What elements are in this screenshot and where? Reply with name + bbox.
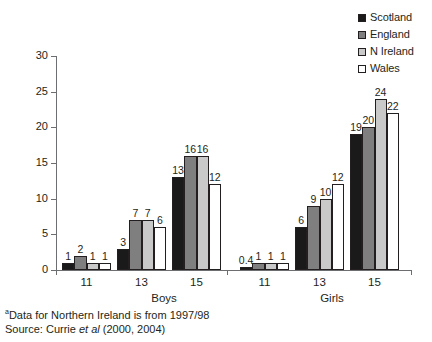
bar[interactable] — [129, 220, 141, 270]
bar[interactable] — [265, 263, 277, 270]
bar[interactable] — [99, 263, 111, 270]
bar[interactable] — [197, 156, 209, 270]
bar-group-bars: 19202422 — [350, 56, 399, 270]
bar-value-label: 9 — [310, 194, 316, 205]
legend-swatch-england — [358, 31, 366, 39]
bar-value-label: 3 — [120, 237, 126, 248]
legend-item-england: England — [358, 27, 432, 42]
bar-slot: 1 — [87, 56, 99, 270]
bar-slot: 16 — [197, 56, 209, 270]
bar[interactable] — [320, 199, 332, 270]
bar[interactable] — [74, 256, 86, 270]
x-axis-tick-label: 15 — [368, 276, 381, 289]
y-axis-tick: 10 — [51, 199, 56, 200]
bar-value-label: 1 — [268, 251, 274, 262]
bar-group: 121111 — [62, 56, 111, 270]
bar-slot: 10 — [320, 56, 332, 270]
bar[interactable] — [117, 249, 129, 270]
bar[interactable] — [332, 184, 344, 270]
bar-slot: 0.4 — [240, 56, 252, 270]
bar[interactable] — [252, 263, 264, 270]
x-axis-separator-tick — [227, 270, 228, 275]
bar[interactable] — [375, 99, 387, 270]
bar[interactable] — [277, 263, 289, 270]
footnote-note-text: Data for Northern Ireland is from 1997/9… — [9, 309, 210, 321]
x-axis-tick-label: 11 — [259, 276, 271, 289]
y-axis-tick-label: 15 — [36, 156, 48, 169]
bar[interactable] — [295, 227, 307, 270]
bar[interactable] — [387, 113, 399, 270]
bar-slot: 19 — [350, 56, 362, 270]
bar-group-bars: 13161612 — [172, 56, 221, 270]
bar-value-label: 12 — [332, 172, 344, 183]
legend-swatch-n-ireland — [358, 48, 366, 56]
bar-value-label: 6 — [298, 215, 304, 226]
bar[interactable] — [87, 263, 99, 270]
bar-slot: 6 — [295, 56, 307, 270]
bar[interactable] — [350, 134, 362, 270]
bar-group: 1316161215 — [172, 56, 221, 270]
bar[interactable] — [142, 220, 154, 270]
legend-label-scotland: Scotland — [370, 12, 412, 23]
bar-value-label: 2 — [77, 244, 83, 255]
plot-area: 051015202530 12111137761313161612150.411… — [56, 56, 412, 270]
bar-group: 1920242215 — [350, 56, 399, 270]
bar-group-bars: 3776 — [117, 56, 166, 270]
footnote-note: aData for Northern Ireland is from 1997/… — [5, 308, 425, 322]
y-axis-tick: 30 — [51, 56, 56, 57]
y-axis-tick-label: 20 — [36, 120, 48, 133]
bar-value-label: 22 — [387, 101, 399, 112]
y-axis-tick-label: 25 — [36, 85, 48, 98]
y-axis-tick: 20 — [51, 127, 56, 128]
bar-value-label: 19 — [350, 122, 362, 133]
bar-slot: 6 — [154, 56, 166, 270]
bar-slot: 2 — [74, 56, 86, 270]
bar-value-label: 16 — [197, 144, 209, 155]
bar-value-label: 1 — [65, 251, 71, 262]
bar-slot: 12 — [209, 56, 221, 270]
bar[interactable] — [154, 227, 166, 270]
source-years: (2000, 2004) — [100, 323, 165, 335]
axis-group-label-boys: Boys — [151, 292, 177, 305]
footnotes: aData for Northern Ireland is from 1997/… — [5, 308, 425, 336]
bar-group: 377613 — [117, 56, 166, 270]
bar-slot: 12 — [332, 56, 344, 270]
bar[interactable] — [62, 263, 74, 270]
bar-slot: 20 — [362, 56, 374, 270]
bar[interactable] — [362, 127, 374, 270]
bar[interactable] — [240, 267, 252, 270]
y-axis-tick-label: 5 — [42, 227, 48, 240]
y-axis-tick: 25 — [51, 92, 56, 93]
legend-swatch-scotland — [358, 14, 366, 22]
bar-value-label: 16 — [185, 144, 197, 155]
x-axis-separator-tick — [411, 270, 412, 275]
x-axis-tick-label: 13 — [313, 276, 326, 289]
bar-group-bars: 1211 — [62, 56, 111, 270]
source-etal: et al — [79, 323, 100, 335]
bar-value-label: 13 — [172, 165, 184, 176]
bar-slot: 7 — [129, 56, 141, 270]
clipped-title-ghost — [86, 0, 89, 3]
bar-slot: 13 — [172, 56, 184, 270]
y-axis-tick: 15 — [51, 163, 56, 164]
legend-item-scotland: Scotland — [358, 10, 432, 25]
y-axis-tick: 5 — [51, 234, 56, 235]
bar-value-label: 7 — [145, 208, 151, 219]
bar-value-label: 12 — [209, 172, 221, 183]
bar-value-label: 10 — [320, 187, 332, 198]
bar-value-label: 6 — [157, 215, 163, 226]
bar-slot: 1 — [62, 56, 74, 270]
bar-slot: 1 — [99, 56, 111, 270]
bar-slot: 9 — [307, 56, 319, 270]
bar-slot: 3 — [117, 56, 129, 270]
bar[interactable] — [172, 177, 184, 270]
bar-group-bars: 691012 — [295, 56, 344, 270]
bar[interactable] — [184, 156, 196, 270]
bar-slot: 24 — [375, 56, 387, 270]
bar[interactable] — [307, 206, 319, 270]
x-axis-tick-label: 13 — [135, 276, 148, 289]
bar-value-label: 0.4 — [239, 255, 254, 266]
y-axis-tick-label: 30 — [36, 49, 48, 62]
bar-value-label: 1 — [280, 251, 286, 262]
bar[interactable] — [209, 184, 221, 270]
